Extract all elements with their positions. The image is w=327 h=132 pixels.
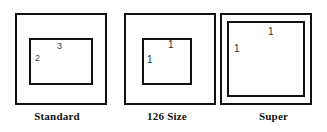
126-height-label: 1 bbox=[147, 55, 153, 65]
super-outer-frame: 1 1 bbox=[220, 13, 312, 105]
panel-super: 1 1 Super bbox=[220, 0, 327, 132]
126-width-label: 1 bbox=[168, 40, 174, 50]
super-height-label: 1 bbox=[234, 44, 240, 54]
126-outer-frame: 1 1 bbox=[124, 13, 216, 105]
super-inner-area: 1 1 bbox=[227, 21, 305, 97]
super-caption: Super bbox=[220, 110, 327, 122]
standard-width-label: 3 bbox=[57, 42, 62, 51]
format-size-comparison-figure: 3 2 Standard 1 1 126 Size 1 1 Super bbox=[0, 0, 327, 132]
standard-outer-frame: 3 2 bbox=[15, 13, 107, 105]
126-inner-area: 1 1 bbox=[142, 38, 192, 85]
super-width-label: 1 bbox=[268, 27, 274, 37]
standard-caption: Standard bbox=[0, 110, 114, 122]
standard-height-label: 2 bbox=[35, 54, 40, 63]
126-caption: 126 Size bbox=[114, 110, 220, 122]
standard-inner-area: 3 2 bbox=[29, 38, 93, 85]
panel-standard: 3 2 Standard bbox=[0, 0, 114, 132]
panel-126-size: 1 1 126 Size bbox=[114, 0, 220, 132]
